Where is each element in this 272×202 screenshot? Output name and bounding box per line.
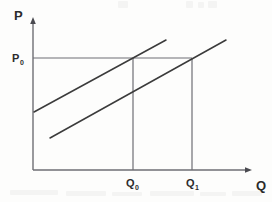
right-arrow-icon bbox=[245, 167, 252, 173]
tick-label-q0-subscript: 0 bbox=[135, 184, 139, 191]
tick-label-q1-base: Q bbox=[186, 177, 195, 189]
tick-label-p0: P 0 bbox=[12, 52, 24, 66]
tick-label-p0-base: P bbox=[12, 52, 19, 64]
supply-curve-figure: P Q P 0 Q 0 Q 1 bbox=[0, 0, 272, 202]
tick-label-q1-subscript: 1 bbox=[195, 184, 199, 191]
tick-label-p0-subscript: 0 bbox=[20, 59, 24, 66]
supply-curves-group bbox=[34, 40, 226, 138]
tick-label-q0-base: Q bbox=[126, 177, 135, 189]
quantity-axis-label: Q bbox=[256, 178, 266, 193]
guide-lines-group bbox=[33, 58, 192, 170]
diagram-canvas: P Q P 0 Q 0 Q 1 bbox=[0, 0, 272, 202]
price-axis-label: P bbox=[14, 8, 23, 23]
tick-label-q0: Q 0 bbox=[126, 177, 139, 191]
supply-curve-original bbox=[34, 40, 166, 112]
up-arrow-icon bbox=[30, 17, 36, 24]
axes-group bbox=[30, 17, 252, 173]
tick-label-q1: Q 1 bbox=[186, 177, 199, 191]
